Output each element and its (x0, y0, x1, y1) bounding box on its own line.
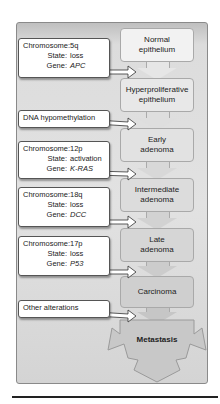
value-state: loss (70, 249, 105, 259)
label-chromosome: Chromosome: (23, 144, 70, 154)
value-state: loss (70, 200, 105, 210)
value-chromosome: 18q (70, 190, 105, 200)
callout-17p-p53: Chromosome:17p State:loss Gene:P53 (18, 236, 110, 276)
value-chromosome: 12p (70, 144, 105, 154)
label-chromosome: Chromosome: (23, 190, 70, 200)
label-chromosome: Chromosome: (23, 239, 70, 249)
label-gene: Gene: (23, 259, 70, 269)
label-state: State: (23, 154, 70, 164)
label-state: State: (23, 51, 70, 61)
value-state: activation (70, 154, 105, 164)
label-gene: Gene: (23, 210, 70, 220)
callout-12p-kras: Chromosome:12p State:activation Gene:K-R… (18, 141, 110, 179)
alteration-text: DNA hypomethylation (23, 113, 95, 122)
value-chromosome: 17p (70, 239, 105, 249)
callout-dna-hypomethylation: DNA hypomethylation (18, 110, 110, 128)
callout-5q-apc: Chromosome:5q State:loss Gene:APC (18, 38, 110, 78)
value-gene: APC (70, 61, 105, 71)
value-state: loss (70, 51, 105, 61)
value-gene: DCC (70, 210, 105, 220)
value-gene: K-RAS (70, 164, 105, 174)
value-chromosome: 5q (70, 41, 105, 51)
alteration-text: Other alterations (23, 303, 78, 312)
value-gene: P53 (70, 259, 105, 269)
label-state: State: (23, 249, 70, 259)
label-state: State: (23, 200, 70, 210)
label-chromosome: Chromosome: (23, 41, 70, 51)
bottom-rule-divider (12, 396, 218, 398)
label-gene: Gene: (23, 61, 70, 71)
label-gene: Gene: (23, 164, 70, 174)
callout-other-alterations: Other alterations (18, 300, 110, 318)
callout-18q-dcc: Chromosome:18q State:loss Gene:DCC (18, 187, 110, 227)
